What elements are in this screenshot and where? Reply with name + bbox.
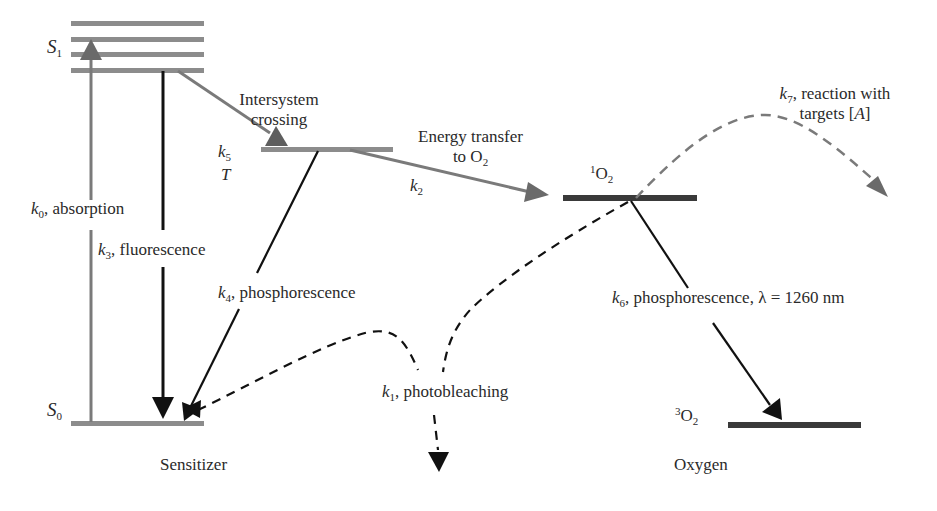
singlet-oxygen-label: 1O2 — [590, 163, 613, 186]
intersystem-crossing-label: Intersystem crossing — [224, 90, 334, 129]
oxygen-group-label: Oxygen — [674, 455, 728, 475]
t-state-label: T — [221, 165, 230, 185]
k6-phosphorescence-label: k6, phosphorescence, λ = 1260 nm — [612, 288, 844, 310]
k5-label: k5 — [218, 142, 231, 164]
k7-label: k7, reaction with targets [A] — [765, 84, 905, 123]
absorption-arrow — [80, 39, 102, 422]
k0-absorption-label: k0, absorption — [31, 199, 124, 221]
k3-fluorescence-label: k3, fluorescence — [98, 240, 205, 262]
k4-phosphorescence-label: k4, phosphorescence — [218, 283, 356, 305]
triplet-oxygen-level — [728, 422, 861, 428]
energy-transfer-label: Energy transfer to O2 — [403, 127, 538, 168]
k1-photobleaching-label: k1, photobleaching — [382, 382, 508, 404]
k2-label: k2 — [410, 176, 423, 198]
t-level — [261, 147, 393, 152]
phosphorescence-arrow-oxygen — [631, 201, 782, 420]
s0-label: S0 — [47, 399, 62, 423]
photobleaching-arrows — [183, 202, 628, 472]
reaction-with-targets-arrow — [636, 115, 888, 198]
triplet-oxygen-label: 3O2 — [675, 405, 698, 428]
sensitizer-group-label: Sensitizer — [160, 455, 227, 475]
s1-label: S1 — [47, 36, 62, 60]
singlet-oxygen-level — [563, 195, 697, 201]
